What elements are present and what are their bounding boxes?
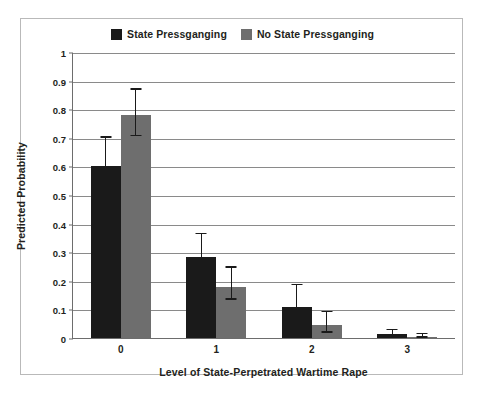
error-bar-cap-upper	[226, 266, 237, 268]
y-tick-mark	[69, 167, 73, 168]
bar-state-pressganging-0	[91, 166, 121, 338]
x-tick-label-3: 3	[404, 344, 410, 355]
y-tick-label: 0.6	[53, 162, 66, 173]
error-bar-cap-upper	[321, 311, 332, 313]
y-tick-mark	[69, 281, 73, 282]
y-tick-mark	[69, 339, 73, 340]
error-bar-cap-lower	[387, 335, 398, 337]
x-tick-label-0: 0	[118, 344, 124, 355]
chart-figure: State Pressganging No State Pressganging…	[0, 0, 485, 397]
error-bar-line	[326, 312, 327, 333]
error-bar-cap-lower	[226, 298, 237, 300]
x-axis-label: Level of State-Perpetrated Wartime Rape	[72, 366, 455, 378]
y-tick-mark	[69, 110, 73, 111]
y-tick-label: 0.5	[53, 191, 66, 202]
y-tick-mark	[69, 196, 73, 197]
error-bar-cap-upper	[387, 329, 398, 331]
y-tick-mark	[69, 53, 73, 54]
y-tick-mark	[69, 253, 73, 254]
plot-area: 00.10.20.30.40.50.60.70.80.910123	[72, 53, 455, 339]
y-tick-label: 0.9	[53, 76, 66, 87]
error-bar-cap-lower	[100, 191, 111, 193]
error-bar-line	[296, 285, 297, 322]
error-bar-cap-upper	[100, 136, 111, 138]
y-tick-label: 0.8	[53, 105, 66, 116]
error-bar-cap-lower	[417, 336, 428, 338]
y-tick-label: 0.7	[53, 133, 66, 144]
y-tick-label: 0.2	[53, 276, 66, 287]
error-bar-line	[201, 234, 202, 277]
y-tick-label: 1	[61, 48, 66, 59]
error-bar-cap-upper	[130, 88, 141, 90]
error-bar-line	[105, 138, 106, 192]
y-tick-label: 0	[61, 334, 66, 345]
x-tick-label-2: 2	[309, 344, 315, 355]
error-bar-cap-lower	[321, 331, 332, 333]
error-bar-cap-upper	[417, 333, 428, 335]
y-tick-label: 0.1	[53, 305, 66, 316]
error-bar-cap-lower	[196, 276, 207, 278]
error-bar-cap-upper	[196, 233, 207, 235]
y-axis-label: Predicted Probability	[15, 142, 27, 250]
error-bar-cap-upper	[291, 284, 302, 286]
bar-no-state-pressganging-0	[121, 115, 151, 338]
gridline	[73, 82, 455, 83]
y-tick-mark	[69, 81, 73, 82]
y-tick-label: 0.3	[53, 248, 66, 259]
x-tick-label-1: 1	[213, 344, 219, 355]
y-tick-mark	[69, 310, 73, 311]
error-bar-cap-lower	[130, 135, 141, 137]
y-tick-label: 0.4	[53, 219, 66, 230]
y-tick-mark	[69, 224, 73, 225]
gridline	[73, 53, 455, 54]
y-tick-mark	[69, 138, 73, 139]
error-bar-cap-lower	[291, 321, 302, 323]
gridline	[73, 110, 455, 111]
error-bar-line	[135, 90, 136, 137]
error-bar-line	[231, 268, 232, 300]
